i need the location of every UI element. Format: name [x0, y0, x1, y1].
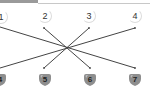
top-node-1[interactable]: 1	[0, 10, 8, 24]
bottom-node-5[interactable]: 5	[38, 73, 52, 87]
bottom-node-label: 4	[0, 74, 7, 86]
top-node-2[interactable]: 2	[38, 9, 52, 23]
top-node-label: 2	[42, 11, 47, 21]
top-node-label: 4	[132, 11, 137, 21]
top-node-3[interactable]: 3	[82, 9, 96, 23]
top-node-label: 3	[86, 11, 91, 21]
bottom-node-label: 6	[83, 74, 97, 86]
top-node-4[interactable]: 4	[128, 9, 142, 23]
bottom-node-label: 5	[38, 74, 52, 86]
bottom-node-7[interactable]: 7	[128, 73, 142, 87]
bottom-node-4[interactable]: 4	[0, 73, 7, 87]
top-node-label: 1	[0, 12, 4, 22]
bottom-node-label: 7	[128, 74, 142, 86]
bottom-node-6[interactable]: 6	[83, 73, 97, 87]
